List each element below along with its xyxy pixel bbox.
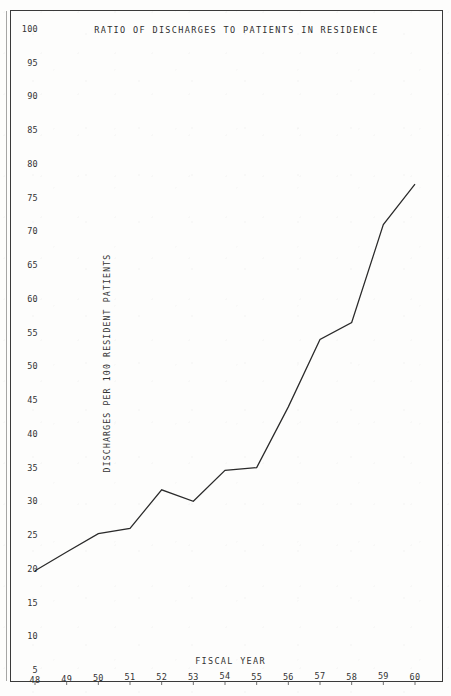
x-tick-60: 60 bbox=[410, 672, 421, 682]
x-tick-48: 48 bbox=[30, 675, 41, 685]
y-tick-65: 65 bbox=[12, 260, 38, 270]
x-tick-54: 54 bbox=[220, 671, 231, 681]
y-tick-75: 75 bbox=[12, 193, 38, 203]
chart-title: RATIO OF DISCHARGES TO PATIENTS IN RESID… bbox=[0, 25, 451, 35]
x-tick-58: 58 bbox=[346, 672, 357, 682]
y-tick-30: 30 bbox=[12, 496, 38, 506]
x-tick-49: 49 bbox=[61, 674, 72, 684]
x-tick-50: 50 bbox=[93, 673, 104, 683]
x-tick-55: 55 bbox=[251, 672, 262, 682]
y-tick-60: 60 bbox=[12, 294, 38, 304]
y-axis-label: DISCHARGES PER 100 RESIDENT PATIENTS bbox=[102, 248, 112, 478]
y-tick-5: 5 bbox=[12, 665, 38, 675]
y-tick-25: 25 bbox=[12, 530, 38, 540]
y-tick-10: 10 bbox=[12, 631, 38, 641]
y-axis-label-container: DISCHARGES PER 100 RESIDENT PATIENTS bbox=[44, 258, 60, 468]
y-tick-90: 90 bbox=[12, 91, 38, 101]
x-tick-57: 57 bbox=[315, 671, 326, 681]
y-tick-45: 45 bbox=[12, 395, 38, 405]
y-tick-70: 70 bbox=[12, 226, 38, 236]
x-tick-53: 53 bbox=[188, 672, 199, 682]
y-tick-55: 55 bbox=[12, 328, 38, 338]
y-tick-15: 15 bbox=[12, 598, 38, 608]
y-tick-100: 100 bbox=[12, 24, 38, 34]
y-tick-20: 20 bbox=[12, 564, 38, 574]
x-axis-label: FISCAL YEAR bbox=[0, 656, 451, 666]
x-tick-56: 56 bbox=[283, 672, 294, 682]
y-tick-80: 80 bbox=[12, 159, 38, 169]
x-tick-51: 51 bbox=[125, 672, 136, 682]
chart-frame-border bbox=[10, 10, 443, 682]
y-tick-40: 40 bbox=[12, 429, 38, 439]
x-tick-52: 52 bbox=[156, 672, 167, 682]
y-tick-35: 35 bbox=[12, 463, 38, 473]
x-tick-59: 59 bbox=[378, 671, 389, 681]
y-tick-50: 50 bbox=[12, 361, 38, 371]
chart-page: RATIO OF DISCHARGES TO PATIENTS IN RESID… bbox=[0, 0, 451, 696]
y-tick-85: 85 bbox=[12, 125, 38, 135]
y-tick-95: 95 bbox=[12, 58, 38, 68]
